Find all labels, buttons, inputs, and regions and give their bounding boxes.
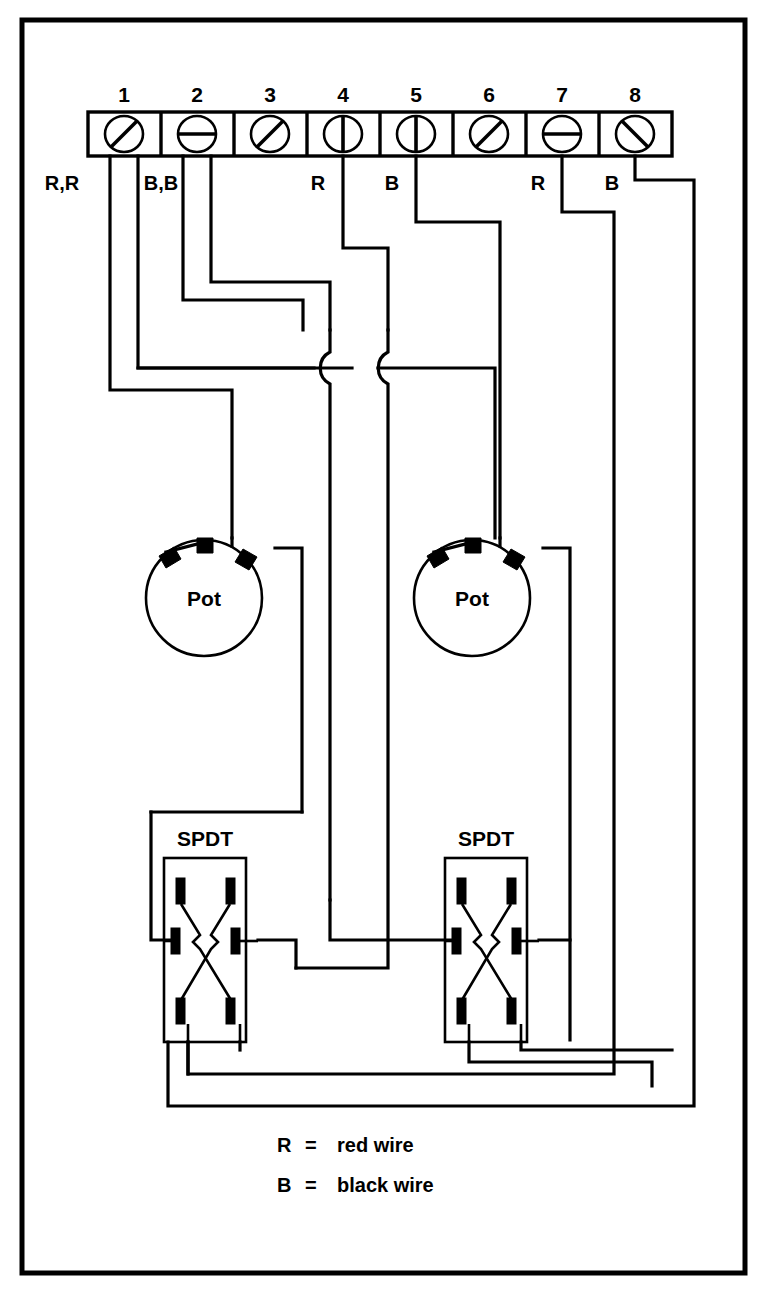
wire-spdt-left-right-out [258,940,296,968]
legend: R = red wire B = black wire [277,1134,434,1196]
wiring-diagram-sheet: 1 2 3 4 5 6 7 8 R,R B,B R B R B [0,0,764,1293]
terminal-number-1: 1 [118,83,130,106]
terminal-screw-7[interactable] [543,116,581,152]
diagram-border [22,20,745,1273]
terminal-number-4: 4 [337,83,349,106]
wire-label-terminal-2: B,B [144,172,178,194]
wire-label-terminal-8: B [605,172,619,194]
spdt-right[interactable]: SPDT [445,827,539,1042]
terminal-number-6: 6 [483,83,495,106]
wire-t5 [416,156,500,538]
wire-label-terminal-7: R [531,172,546,194]
wire-t2-a [183,156,303,330]
wire-label-terminal-5: B [385,172,399,194]
spdt-left[interactable]: SPDT [164,827,258,1042]
terminal-number-2: 2 [191,83,203,106]
wire-t1-a [110,156,232,538]
legend-meaning-b: black wire [337,1174,434,1196]
wire-hop-2 [296,330,388,968]
wire-label-terminal-1: R,R [45,172,80,194]
wire-t7 [188,156,614,1074]
legend-meaning-r: red wire [337,1134,414,1156]
legend-symbol-r: R [277,1134,292,1156]
terminal-number-8: 8 [629,83,641,106]
wire-potleft-right-lug [275,548,302,812]
wire-spdt-right-in [330,900,452,940]
legend-symbol-b: B [277,1174,291,1196]
terminal-screw-3[interactable] [251,116,289,152]
terminal-screw-8[interactable] [616,116,654,152]
terminal-number-7: 7 [556,83,568,106]
legend-equals-b: = [305,1174,317,1196]
wire-spdt-left-in [151,812,171,940]
wire-bus-right [378,368,495,538]
terminal-screw-1[interactable] [105,116,143,152]
pot-right[interactable]: Pot [414,538,530,656]
wiring-harness [110,156,694,1106]
terminal-screw-4[interactable] [324,116,362,152]
legend-equals-r: = [305,1134,317,1156]
pot-left[interactable]: Pot [146,538,262,656]
wire-t4 [343,156,388,330]
wire-hop-1 [320,330,330,900]
spdt-right-label: SPDT [458,827,514,850]
terminal-screw-5[interactable] [397,116,435,152]
terminal-number-3: 3 [264,83,276,106]
pot-left-label: Pot [187,587,221,610]
wire-spdt-right-bottom-b [521,1042,672,1050]
terminal-screw-2[interactable] [178,116,216,152]
spdt-left-label: SPDT [177,827,233,850]
wire-potright-right-lug [543,548,570,1040]
pot-right-label: Pot [455,587,489,610]
terminal-screw-6[interactable] [470,116,508,152]
terminal-number-5: 5 [410,83,422,106]
wire-label-terminal-4: R [311,172,326,194]
